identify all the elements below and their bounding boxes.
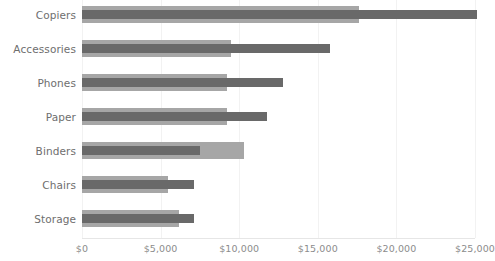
- x-tick-label: $10,000: [219, 243, 259, 254]
- bar-row[interactable]: [82, 102, 475, 136]
- bar-segment-inner[interactable]: [82, 146, 200, 155]
- bar-rows: [82, 0, 475, 238]
- y-axis-label-accessories: Accessories: [0, 43, 76, 55]
- x-axis: $0$5,000$10,000$15,000$20,000$25,000: [0, 238, 475, 261]
- bar-segment-inner[interactable]: [82, 180, 194, 189]
- bar-row[interactable]: [82, 136, 475, 170]
- bar-row[interactable]: [82, 34, 475, 68]
- y-axis-category-labels: CopiersAccessoriesPhonesPaperBindersChai…: [0, 0, 76, 238]
- plot-area: [82, 0, 475, 238]
- x-tick-label: $20,000: [376, 243, 416, 254]
- bar-row[interactable]: [82, 204, 475, 238]
- y-axis-label-paper: Paper: [0, 111, 76, 123]
- bar-segment-inner[interactable]: [82, 214, 194, 223]
- y-axis-label-phones: Phones: [0, 77, 76, 89]
- x-axis-line: [82, 238, 475, 239]
- bar-row[interactable]: [82, 68, 475, 102]
- x-tick-label: $25,000: [455, 243, 495, 254]
- y-axis-label-binders: Binders: [0, 145, 76, 157]
- bar-segment-inner[interactable]: [82, 112, 267, 121]
- y-axis-label-storage: Storage: [0, 213, 76, 225]
- bar-segment-inner[interactable]: [82, 10, 477, 19]
- bar-row[interactable]: [82, 0, 475, 34]
- bar-row[interactable]: [82, 170, 475, 204]
- bar-segment-inner[interactable]: [82, 44, 330, 53]
- bar-segment-inner[interactable]: [82, 78, 283, 87]
- x-tick-label: $15,000: [298, 243, 338, 254]
- gridline: [475, 0, 476, 238]
- x-tick-label: $5,000: [144, 243, 178, 254]
- y-axis-label-chairs: Chairs: [0, 179, 76, 191]
- x-tick-label: $0: [76, 243, 88, 254]
- y-axis-label-copiers: Copiers: [0, 9, 76, 21]
